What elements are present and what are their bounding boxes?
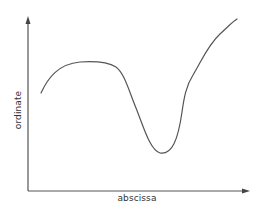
x-axis-label: abscissa: [117, 194, 156, 203]
chart-svg: [0, 0, 260, 209]
data-curve: [41, 19, 237, 153]
y-axis-label: ordinate: [14, 91, 23, 129]
chart-figure: abscissa ordinate: [0, 0, 260, 209]
x-axis-arrow-icon: [242, 189, 250, 194]
y-axis-arrow-icon: [26, 16, 31, 24]
